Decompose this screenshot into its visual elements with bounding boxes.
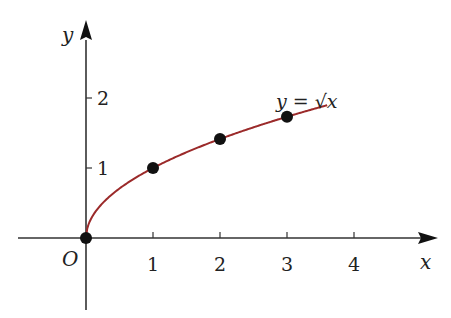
y-axis-arrow-icon (80, 20, 92, 40)
labels: y x O y = √x (61, 23, 431, 274)
function-label: y = √x (275, 90, 338, 112)
y-axis-label: y (61, 23, 74, 47)
axes: 123412 (18, 20, 438, 310)
data-point (214, 133, 226, 145)
data-point (281, 111, 293, 123)
x-tick-label: 2 (214, 253, 226, 275)
x-axis-label: x (420, 250, 431, 274)
x-tick-label: 1 (147, 253, 159, 275)
origin-label: O (62, 247, 78, 271)
y-tick-label: 1 (97, 157, 109, 179)
data-point (80, 232, 92, 244)
x-tick-label: 3 (281, 253, 293, 275)
sqrt-curve (86, 105, 327, 238)
sqrt-function-plot: 123412 y x O y = √x (0, 0, 451, 318)
x-tick-label: 4 (348, 253, 360, 275)
data-points (80, 111, 293, 244)
data-point (147, 162, 159, 174)
x-axis-arrow-icon (418, 232, 438, 244)
y-tick-label: 2 (97, 87, 109, 109)
